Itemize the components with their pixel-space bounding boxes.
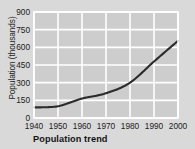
chart-title: Population trend [33, 134, 108, 144]
x-tick-label: 2000 [161, 121, 195, 131]
y-tick-label: 450 [4, 60, 30, 70]
y-tick-label: 150 [4, 95, 30, 105]
chart-figure: Population (thousands) 01503004506007509… [0, 0, 195, 149]
y-tick-label: 300 [4, 78, 30, 88]
y-tick-label: 900 [4, 7, 30, 17]
y-tick-label: 600 [4, 42, 30, 52]
y-tick-label: 750 [4, 25, 30, 35]
